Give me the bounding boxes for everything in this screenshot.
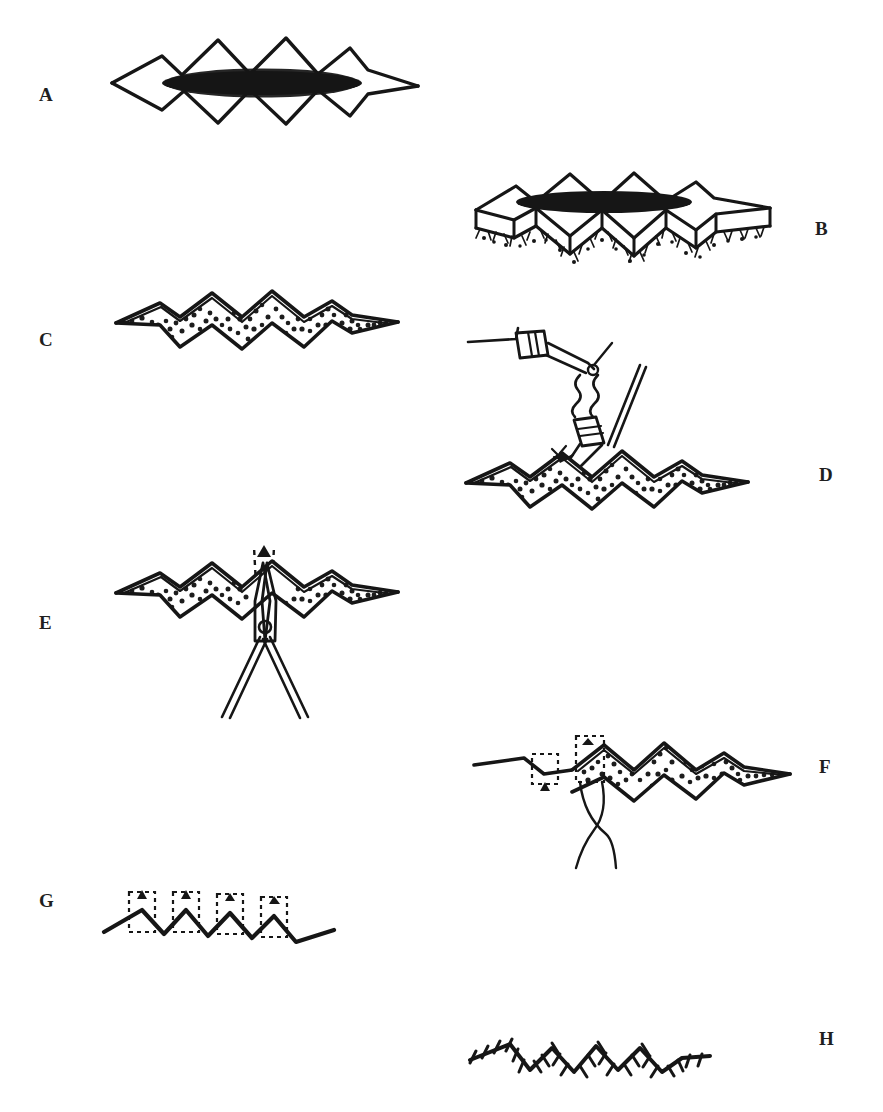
panel-label-g: G — [39, 891, 54, 910]
motion-arrow-head — [257, 545, 271, 557]
scissors-handle-left-a — [222, 637, 260, 717]
panel-h-svg — [468, 1028, 768, 1088]
panel-c-illustration — [112, 285, 402, 365]
panel-label-f: F — [819, 757, 831, 776]
cautery-barrel — [574, 417, 604, 446]
panel-label-h: H — [819, 1029, 834, 1048]
suture-thread-b — [576, 782, 604, 868]
panel-c-svg — [112, 285, 402, 365]
figure-root: A — [0, 0, 883, 1112]
stippled-fat — [558, 730, 798, 820]
panel-label-e: E — [39, 613, 52, 632]
cautery-handpiece-band-2 — [535, 332, 539, 356]
panel-a-illustration — [110, 28, 420, 128]
panel-label-d: D — [819, 465, 833, 484]
panel-label-c: C — [39, 330, 53, 349]
lesion-ellipse — [516, 191, 692, 213]
cautery-cord-wave-right — [590, 375, 598, 417]
panel-e-illustration — [112, 545, 412, 720]
suture-apex-mark-2 — [582, 738, 594, 745]
panel-label-b: B — [815, 219, 828, 238]
cautery-barrel-band-1 — [578, 426, 601, 429]
lesion-ellipse-soft — [165, 69, 359, 98]
scissors-handle-right-a — [270, 637, 308, 717]
panel-h-illustration — [468, 1028, 768, 1088]
cautery-cord-tail — [468, 328, 518, 342]
panel-f-svg — [468, 730, 798, 870]
scissors-handle-left-b — [230, 639, 267, 718]
cautery-cord-wave-left — [572, 375, 580, 417]
panel-d-svg — [462, 325, 792, 540]
cautery-prong — [594, 343, 612, 365]
panel-e-svg — [112, 545, 412, 720]
panel-label-a: A — [39, 85, 53, 104]
cautery-long-arm — [608, 365, 640, 445]
cautery-long-arm-b — [614, 367, 646, 447]
panel-f-illustration — [468, 730, 798, 870]
panel-g-svg — [104, 880, 404, 960]
closed-zigzag-line — [104, 910, 334, 942]
cautery-barrel-band-2 — [580, 433, 603, 436]
scissors-handle-right-b — [263, 639, 300, 718]
panel-d-illustration — [462, 325, 792, 540]
panel-b-illustration — [470, 168, 780, 278]
panel-a-svg — [110, 28, 420, 128]
panel-b-svg — [470, 168, 780, 278]
panel-g-illustration — [104, 880, 404, 960]
cautery-handpiece-band-1 — [528, 332, 532, 356]
